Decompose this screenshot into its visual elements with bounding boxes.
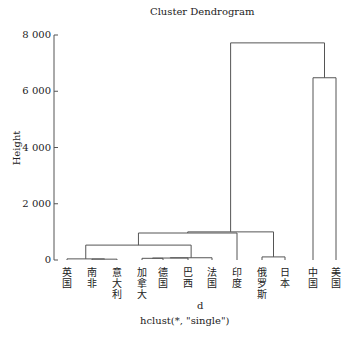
- leaf-label: 意大利: [112, 266, 122, 300]
- leaf-label: 德国: [158, 266, 168, 289]
- leaf-label: 俄罗斯: [257, 267, 267, 300]
- dendrogram-branch: [170, 258, 212, 260]
- dendrogram-branch: [231, 43, 325, 232]
- leaf-label: 加拿大: [137, 267, 147, 300]
- dendrogram-branch: [153, 258, 189, 260]
- dendrogram-plot: 02 0004 0006 0008 000Height英国南非意大利加拿大德国巴…: [0, 0, 354, 343]
- leaf-label: 南非: [87, 266, 97, 289]
- leaf-label: 中国: [308, 266, 318, 289]
- leaf-label: 印度: [232, 267, 242, 289]
- y-tick-label: 0: [45, 254, 51, 265]
- dendrogram-branch: [86, 245, 191, 259]
- x-axis-sublabel: hclust(*, "single"): [140, 315, 229, 326]
- leaf-label: 巴西: [183, 267, 193, 289]
- dendrogram-branch: [138, 233, 237, 260]
- leaf-label: 英国: [62, 266, 72, 289]
- dendrogram-branch: [313, 78, 336, 260]
- leaf-label: 日本: [280, 267, 290, 289]
- y-tick-label: 2 000: [22, 198, 51, 209]
- dendrogram-branch: [188, 232, 274, 257]
- y-axis-label: Height: [11, 131, 22, 166]
- dendrogram-branch: [262, 257, 285, 260]
- dendrogram-branch: [142, 258, 163, 260]
- y-tick-label: 8 000: [22, 29, 51, 40]
- y-tick-label: 4 000: [22, 142, 51, 153]
- y-tick-label: 6 000: [22, 85, 51, 96]
- leaf-label: 美国: [331, 266, 341, 289]
- leaf-label: 法国: [207, 266, 217, 289]
